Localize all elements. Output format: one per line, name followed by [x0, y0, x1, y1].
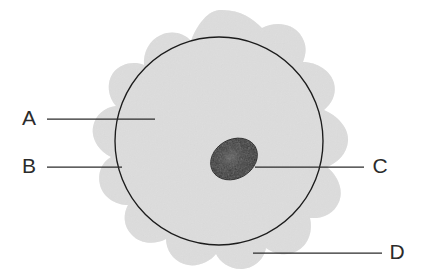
label-a-text: A	[22, 106, 36, 129]
label-d-text: D	[389, 240, 404, 263]
label-b-text: B	[22, 154, 36, 177]
label-c-text: C	[372, 154, 387, 177]
cell-diagram-canvas: A B C D	[0, 0, 422, 276]
cell-diagram-root: A B C D	[0, 0, 422, 276]
